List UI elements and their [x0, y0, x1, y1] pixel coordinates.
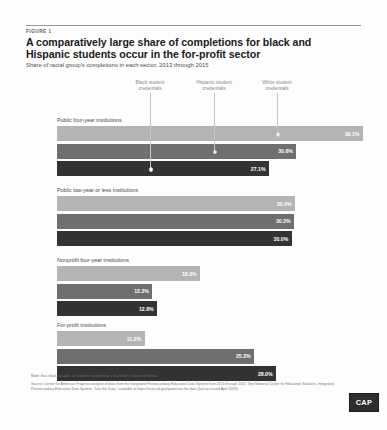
bar-value-label: 39.1% [345, 131, 360, 137]
cap-logo-text: CAP [356, 398, 373, 407]
bar: 30.4% [57, 196, 295, 211]
group-label-0: Public four-year institutions [57, 117, 122, 123]
group-label-2: Nonprofit four-year institutions [57, 257, 129, 263]
bar-value-label: 18.3% [182, 271, 197, 277]
legend-leader-line [150, 93, 151, 169]
bar-value-label: 12.2% [134, 288, 149, 294]
bar: 30.6% [57, 144, 296, 159]
bar-chart: Public four-year institutions39.1%30.6%2… [0, 0, 387, 430]
bar-value-label: 30.4% [277, 201, 292, 207]
bar: 25.2% [57, 349, 254, 364]
legend-leader-line [277, 93, 278, 134]
figure-note: Note: this chart includes all students c… [31, 374, 351, 379]
bar: 30.0% [57, 231, 292, 246]
bar: 18.3% [57, 266, 200, 281]
cap-logo: CAP [349, 393, 379, 412]
bar-value-label: 12.8% [139, 306, 154, 312]
bar: 12.2% [57, 284, 152, 299]
bar-value-label: 30.6% [278, 148, 293, 154]
figure-source: Source: Center for American Progress ana… [31, 382, 341, 391]
bar-value-label: 25.2% [236, 353, 251, 359]
bar-value-label: 30.3% [276, 218, 291, 224]
bar: 30.3% [57, 214, 294, 229]
group-label-3: For-profit institutions [57, 322, 106, 328]
bar: 39.1% [57, 126, 363, 141]
bar: 27.1% [57, 161, 269, 176]
figure-page: FIGURE 1 A comparatively large share of … [0, 0, 387, 430]
legend-leader-line [214, 93, 215, 151]
bar-value-label: 11.2% [127, 336, 141, 342]
bar-value-label: 30.0% [274, 236, 289, 242]
bar: 11.2% [57, 331, 145, 346]
group-label-1: Public two-year or less institutions [57, 187, 138, 193]
bar-value-label: 27.1% [251, 166, 266, 172]
bar: 12.8% [57, 301, 157, 316]
legend-anchor-dot [149, 167, 154, 172]
legend-anchor-dot [276, 132, 281, 137]
